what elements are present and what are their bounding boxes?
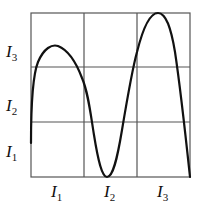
grid-border [31, 13, 190, 177]
y-axis-labels: I3 I2 I1 [5, 42, 18, 163]
x-axis-labels: I1 I2 I3 [50, 182, 169, 203]
x-label-2: I2 [103, 182, 115, 203]
y-label-1: I1 [5, 142, 17, 163]
x-label-1: I1 [50, 182, 62, 203]
y-label-2: I2 [5, 96, 17, 117]
x-label-3: I3 [156, 182, 169, 203]
grid [31, 13, 190, 177]
curve [31, 13, 190, 177]
diagram-canvas: I3 I2 I1 I1 I2 I3 [0, 0, 199, 213]
y-label-3: I3 [5, 42, 18, 63]
